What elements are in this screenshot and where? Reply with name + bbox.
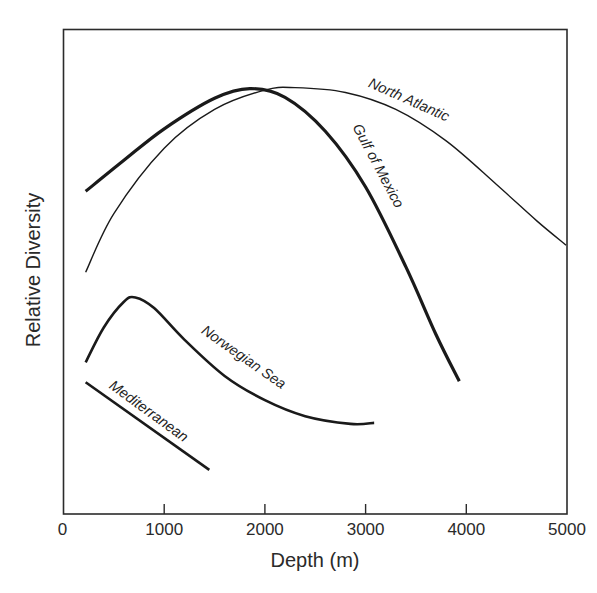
x-tick-label: 0 (58, 520, 67, 539)
x-axis-title: Depth (m) (271, 549, 360, 571)
x-tick-label: 3000 (347, 520, 385, 539)
series-north-atlantic (86, 87, 566, 272)
x-tick-label: 1000 (145, 520, 183, 539)
label-norwegian-sea: Norwegian Sea (199, 322, 289, 392)
series-labels: North AtlanticGulf of MexicoNorwegian Se… (106, 75, 452, 445)
y-axis-title: Relative Diversity (22, 193, 44, 347)
x-axis-ticks (164, 504, 466, 514)
series-mediterranean (86, 382, 210, 470)
x-axis-tick-labels: 010002000300040005000 (58, 520, 586, 539)
diversity-depth-chart: 010002000300040005000 Depth (m) Relative… (0, 0, 597, 593)
x-tick-label: 2000 (246, 520, 284, 539)
label-mediterranean: Mediterranean (106, 377, 191, 445)
plot-frame (64, 30, 568, 515)
series-gulf-of-mexico (86, 89, 460, 382)
x-tick-label: 5000 (548, 520, 586, 539)
label-gulf-of-mexico: Gulf of Mexico (350, 121, 408, 210)
x-tick-label: 4000 (447, 520, 485, 539)
